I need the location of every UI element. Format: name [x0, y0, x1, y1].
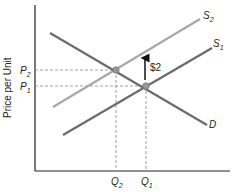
equilibrium-point-after-tax — [113, 67, 119, 73]
supply-curve-s2 — [53, 19, 200, 107]
p2-label: P2 — [20, 65, 31, 78]
d-label: D — [209, 119, 216, 130]
chart-canvas: $2 S2 S1 D P2 P1 Q2 Q1 Price per Unit — [0, 0, 235, 192]
equilibrium-point-original — [143, 83, 149, 89]
y-axis-title: Price per Unit — [2, 57, 13, 118]
s1-label: S1 — [213, 38, 224, 51]
p1-label: P1 — [20, 81, 31, 94]
q1-label: Q1 — [141, 176, 153, 189]
q2-label: Q2 — [111, 176, 123, 189]
supply-demand-chart: $2 S2 S1 D P2 P1 Q2 Q1 Price per Unit — [0, 0, 235, 192]
supply-curve-s1 — [63, 48, 212, 135]
demand-curve — [50, 33, 207, 125]
shift-label: $2 — [150, 62, 162, 73]
s2-label: S2 — [203, 10, 214, 23]
